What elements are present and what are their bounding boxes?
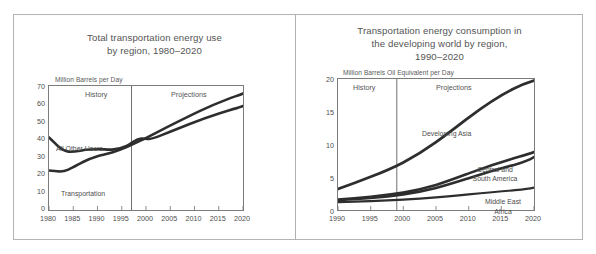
x-tick-right-2000: 2000 <box>388 214 416 223</box>
chart-title-left: Total transportation energy use by regio… <box>13 31 296 57</box>
y-tick-left-30: 30 <box>25 152 45 161</box>
x-tick-right-1995: 1995 <box>356 214 384 223</box>
y-tick-right-5: 5 <box>312 174 334 183</box>
chart-title-right-line3: 1990–2020 <box>296 50 583 63</box>
series-label-developing-asia: Developing Asia <box>422 130 471 139</box>
y-tick-left-10: 10 <box>25 187 45 196</box>
series-line-transportation <box>49 94 243 172</box>
x-tick-right-2010: 2010 <box>454 214 482 223</box>
x-tick-right-2020: 2020 <box>519 214 547 223</box>
plot-area-right <box>337 78 535 211</box>
band-label-history-left: History <box>85 90 107 99</box>
chart-title-right: Transportation energy consumption in the… <box>296 24 583 63</box>
chart-title-right-line2: the developing world by region, <box>296 37 583 50</box>
x-tick-left-2020: 2020 <box>228 214 256 223</box>
plot-svg-right <box>338 79 534 210</box>
y-tick-left-40: 40 <box>25 134 45 143</box>
chart-title-right-line1: Transportation energy consumption in <box>296 24 583 37</box>
y-axis-units-label-left: Million Barrels per Day <box>55 76 122 83</box>
band-label-projections-left: Projections <box>171 90 207 99</box>
y-tick-right-20: 20 <box>312 75 334 84</box>
x-tick-right-1990: 1990 <box>323 214 351 223</box>
panel-divider <box>295 14 296 240</box>
chart-title-left-line1: Total transportation energy use <box>13 31 296 44</box>
y-tick-left-50: 50 <box>25 117 45 126</box>
y-axis-units-label-right: Million Barrels Oil Equivalent per Day <box>343 69 454 76</box>
series-label-central-and-south-america-line1: Central and <box>459 166 531 175</box>
y-tick-left-0: 0 <box>25 204 45 213</box>
x-tick-right-2005: 2005 <box>421 214 449 223</box>
x-tick-marks-left <box>49 206 243 210</box>
y-tick-left-20: 20 <box>25 169 45 178</box>
series-label-all-other-users: All Other Users <box>56 145 103 154</box>
series-label-transportation: Transportation <box>61 190 105 199</box>
chart-panel-left: Total transportation energy use by regio… <box>13 14 296 240</box>
y-tick-left-70: 70 <box>25 82 45 91</box>
y-tick-right-15: 15 <box>312 108 334 117</box>
band-label-history-right: History <box>353 83 375 92</box>
chart-panel-right: Transportation energy consumption in the… <box>296 14 583 240</box>
series-label-central-and-south-america-line2: South America <box>459 175 531 184</box>
y-tick-right-10: 10 <box>312 141 334 150</box>
band-label-projections-right: Projections <box>436 83 472 92</box>
chart-title-left-line2: by region, 1980–2020 <box>13 44 296 57</box>
x-tick-right-2015: 2015 <box>486 214 514 223</box>
series-label-middle-east: Middle East <box>474 198 532 207</box>
y-tick-left-60: 60 <box>25 99 45 108</box>
